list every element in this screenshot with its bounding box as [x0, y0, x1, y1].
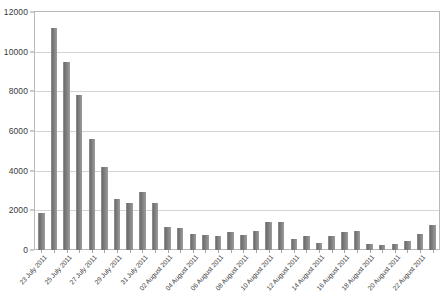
bar: [89, 139, 96, 250]
bar: [190, 234, 197, 250]
x-axis-tick-mark: [130, 250, 131, 253]
x-axis-tick-mark: [79, 250, 80, 253]
x-axis-tick-mark: [382, 250, 383, 253]
x-axis-tick-mark: [205, 250, 206, 253]
y-axis-tick-label: 2000: [9, 205, 28, 215]
bar: [341, 232, 348, 250]
x-axis-tick-mark: [407, 250, 408, 253]
bar: [354, 231, 361, 250]
bar: [291, 239, 298, 250]
x-axis-tick-mark: [155, 250, 156, 253]
x-axis-tick-mark: [433, 250, 434, 253]
bar: [38, 213, 45, 250]
bar: [215, 236, 222, 250]
bar-chart: 020004000600080001000012000 23 July 2011…: [0, 0, 447, 297]
bar: [114, 199, 121, 250]
bar: [101, 167, 108, 250]
bar: [404, 241, 411, 250]
x-axis-tick-mark: [256, 250, 257, 253]
bar: [316, 243, 323, 250]
y-axis-tick-label: 12000: [4, 7, 28, 17]
x-axis: 23 July 201125 July 201127 July 201129 J…: [0, 250, 447, 297]
bar: [328, 236, 335, 250]
bars-layer: [35, 12, 439, 250]
x-axis-tick-mark: [357, 250, 358, 253]
y-axis-tick-label: 6000: [9, 126, 28, 136]
x-axis-tick-mark: [332, 250, 333, 253]
bar: [253, 231, 260, 250]
bar: [76, 95, 83, 250]
bar: [278, 222, 285, 250]
y-axis-tick-label: 8000: [9, 86, 28, 96]
bar: [63, 62, 70, 250]
x-axis-tick-mark: [231, 250, 232, 253]
bar: [265, 222, 272, 250]
bar: [51, 28, 58, 250]
bar: [417, 234, 424, 250]
y-axis-tick-label: 4000: [9, 166, 28, 176]
y-axis: 020004000600080001000012000: [0, 0, 34, 262]
x-axis-tick-mark: [104, 250, 105, 253]
bar: [126, 203, 133, 250]
bar: [240, 235, 247, 250]
bar: [303, 236, 310, 250]
x-axis-tick-mark: [180, 250, 181, 253]
bar: [429, 225, 436, 250]
bar: [227, 232, 234, 250]
bar: [139, 192, 146, 251]
bar: [152, 203, 159, 250]
bar: [177, 228, 184, 250]
bar: [202, 235, 209, 250]
x-axis-tick-mark: [306, 250, 307, 253]
bar: [164, 227, 171, 250]
x-axis-tick-mark: [281, 250, 282, 253]
x-axis-tick-mark: [54, 250, 55, 253]
y-axis-tick-label: 10000: [4, 47, 28, 57]
